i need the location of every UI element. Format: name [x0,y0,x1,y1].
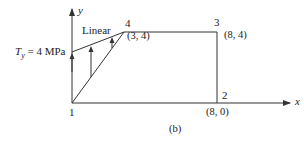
node-4-label: 4 [125,18,131,29]
traction-value: = 4 MPa [27,45,65,57]
traction-label: Ty = 4 MPa [15,46,65,60]
y-axis-label: y [78,5,83,16]
finite-element-diagram: y x 1 2 (8, 0) 3 (8, 4) 4 (3, 4) Linear … [0,0,304,145]
node-2-coord: (8, 0) [206,107,229,118]
load-arrowhead-1 [70,53,75,59]
element-boundary [124,32,217,103]
node-3-coord: (8, 4) [224,30,247,41]
node-1-label: 1 [69,107,75,118]
traction-subscript: y [21,51,25,60]
edge-1-4 [72,32,124,103]
load-distribution-label: Linear [82,25,111,36]
node-2-label: 2 [222,90,228,101]
load-arrowhead-3 [110,37,115,43]
x-axis-label: x [295,96,300,107]
diagram-drawing [0,0,304,145]
node-4-coord: (3, 4) [127,31,150,42]
node-3-label: 3 [214,17,220,28]
load-arrowhead-2 [89,46,94,52]
figure-caption: (b) [169,124,181,135]
